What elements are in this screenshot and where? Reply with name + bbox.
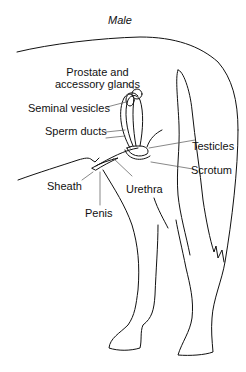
label-testicles: Testicles xyxy=(192,140,234,152)
diagram-title: Male xyxy=(108,14,132,26)
label-prostate-line1: Prostate and xyxy=(40,66,155,78)
label-prostate: Prostate and accessory glands xyxy=(40,66,155,90)
near-hock-outline xyxy=(154,198,168,228)
horse-reproductive-diagram: Male Prostate and accessory glands Semin… xyxy=(0,0,246,372)
label-penis: Penis xyxy=(85,207,113,219)
label-sperm-ducts: Sperm ducts xyxy=(45,125,107,137)
prostate-gland-shape xyxy=(132,89,142,99)
label-scrotum: Scrotum xyxy=(191,164,232,176)
sperm-duct-loop-3 xyxy=(133,100,136,146)
label-seminal-vesicles: Seminal vesicles xyxy=(28,102,110,114)
thigh-outline xyxy=(147,130,162,147)
horse-hindquarter-illustration xyxy=(0,0,246,372)
sheath-shape xyxy=(92,158,118,170)
label-sheath: Sheath xyxy=(47,180,82,192)
label-prostate-line2: accessory glands xyxy=(40,78,155,90)
near-hind-leg-outline xyxy=(103,170,158,350)
label-urethra: Urethra xyxy=(126,183,163,195)
